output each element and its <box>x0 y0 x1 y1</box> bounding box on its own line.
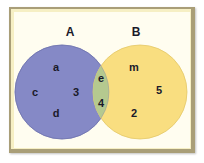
element-e: e <box>98 72 104 84</box>
set-a-label: A <box>66 25 75 39</box>
element-2: 2 <box>131 107 137 119</box>
element-5: 5 <box>156 84 162 96</box>
set-b-label: B <box>132 25 141 39</box>
element-4: 4 <box>98 97 105 109</box>
venn-diagram: A B a c 3 d e 4 m 5 2 <box>0 0 204 163</box>
element-3: 3 <box>73 86 79 98</box>
element-m: m <box>129 61 139 73</box>
element-d: d <box>53 107 60 119</box>
element-c: c <box>32 86 38 98</box>
element-a: a <box>53 61 60 73</box>
